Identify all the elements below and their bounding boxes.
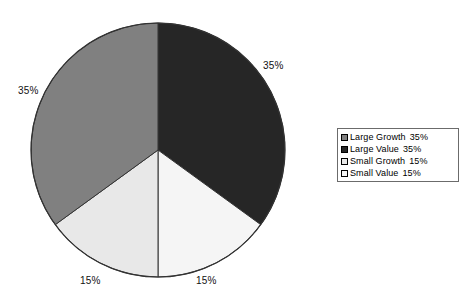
legend-item-small-value[interactable]: Small Value 15% [341, 167, 455, 179]
legend-label-large-growth: Large Growth [350, 131, 406, 143]
legend-item-large-value[interactable]: Large Value 35% [341, 143, 455, 155]
legend-item-large-growth[interactable]: Large Growth 35% [341, 131, 455, 143]
legend-swatch-small-growth [341, 158, 348, 165]
legend-label-small-growth: Small Growth [350, 155, 405, 167]
slice-label-small-value: 15% [196, 275, 217, 286]
slice-label-small-growth: 15% [80, 275, 101, 286]
legend-percent-large-growth: 35% [410, 131, 428, 143]
slice-label-large-value: 35% [263, 60, 284, 71]
legend-percent-large-value: 35% [403, 143, 421, 155]
legend-swatch-small-value [341, 170, 348, 177]
legend-percent-small-growth: 15% [409, 155, 427, 167]
legend-label-small-value: Small Value [350, 167, 398, 179]
pie-chart: 35% 35% 15% 15% Large Growth 35% Large V… [0, 0, 471, 303]
legend-label-large-value: Large Value [350, 143, 399, 155]
legend-swatch-large-value [341, 146, 348, 153]
legend-percent-small-value: 15% [402, 167, 420, 179]
legend-swatch-large-growth [341, 134, 348, 141]
chart-legend: Large Growth 35% Large Value 35% Small G… [337, 128, 459, 182]
slice-label-large-growth: 35% [18, 85, 39, 96]
legend-item-small-growth[interactable]: Small Growth 15% [341, 155, 455, 167]
